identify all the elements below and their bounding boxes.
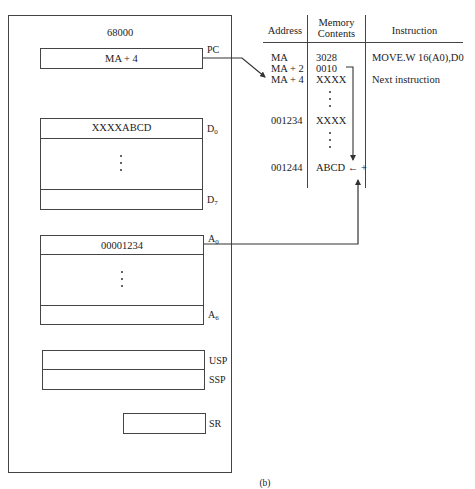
pc-pointer-arrow — [203, 58, 265, 77]
a0-base-arrow — [204, 180, 358, 244]
figure-caption: (b) — [250, 479, 280, 489]
displacement-arrow — [346, 67, 353, 160]
